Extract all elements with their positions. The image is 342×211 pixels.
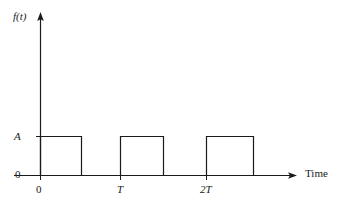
y-axis-label: f(t) xyxy=(13,11,26,22)
x-axis-label: Time xyxy=(305,168,328,179)
waveform-plot xyxy=(0,0,342,211)
x-tick-label-T: T xyxy=(117,184,123,195)
amplitude-label: A xyxy=(14,131,21,142)
pulse-3 xyxy=(207,137,254,176)
x-tick-label-0: 0 xyxy=(36,184,42,195)
pulse-2 xyxy=(121,137,164,176)
x-tick-label-2T: 2T xyxy=(200,184,212,195)
y-axis-origin-label: 0 xyxy=(15,169,21,180)
pulse-1 xyxy=(41,137,82,176)
pulse-train-figure: f(t) A 0 0 T 2T Time xyxy=(0,0,342,211)
